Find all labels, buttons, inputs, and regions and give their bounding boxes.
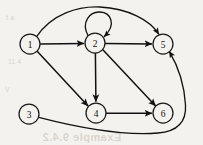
- node-4-label: 4: [94, 109, 99, 119]
- node-1-label: 1: [28, 40, 33, 50]
- edge-1-to-4: [37, 51, 87, 105]
- node-5[interactable]: 5: [153, 34, 173, 54]
- graph-canvas: 1 2 3 4 5 6: [0, 0, 203, 145]
- node-2[interactable]: 2: [85, 33, 105, 53]
- node-1[interactable]: 1: [20, 34, 40, 54]
- node-4[interactable]: 4: [86, 103, 106, 123]
- edge-2-to-4: [95, 53, 96, 101]
- graph-figure: t a 11 4 V Example 9.4.2 1: [0, 0, 203, 145]
- edge-1-to-5: [37, 7, 159, 37]
- edge-1-to-2: [40, 43, 83, 44]
- node-3-label: 3: [27, 110, 32, 120]
- edge-2-to-6: [103, 50, 155, 106]
- node-2-label: 2: [93, 39, 98, 49]
- node-3[interactable]: 3: [19, 104, 39, 124]
- node-5-label: 5: [161, 40, 166, 50]
- edge-2-self-loop: [85, 12, 111, 37]
- node-6[interactable]: 6: [153, 103, 173, 123]
- node-6-label: 6: [161, 109, 166, 119]
